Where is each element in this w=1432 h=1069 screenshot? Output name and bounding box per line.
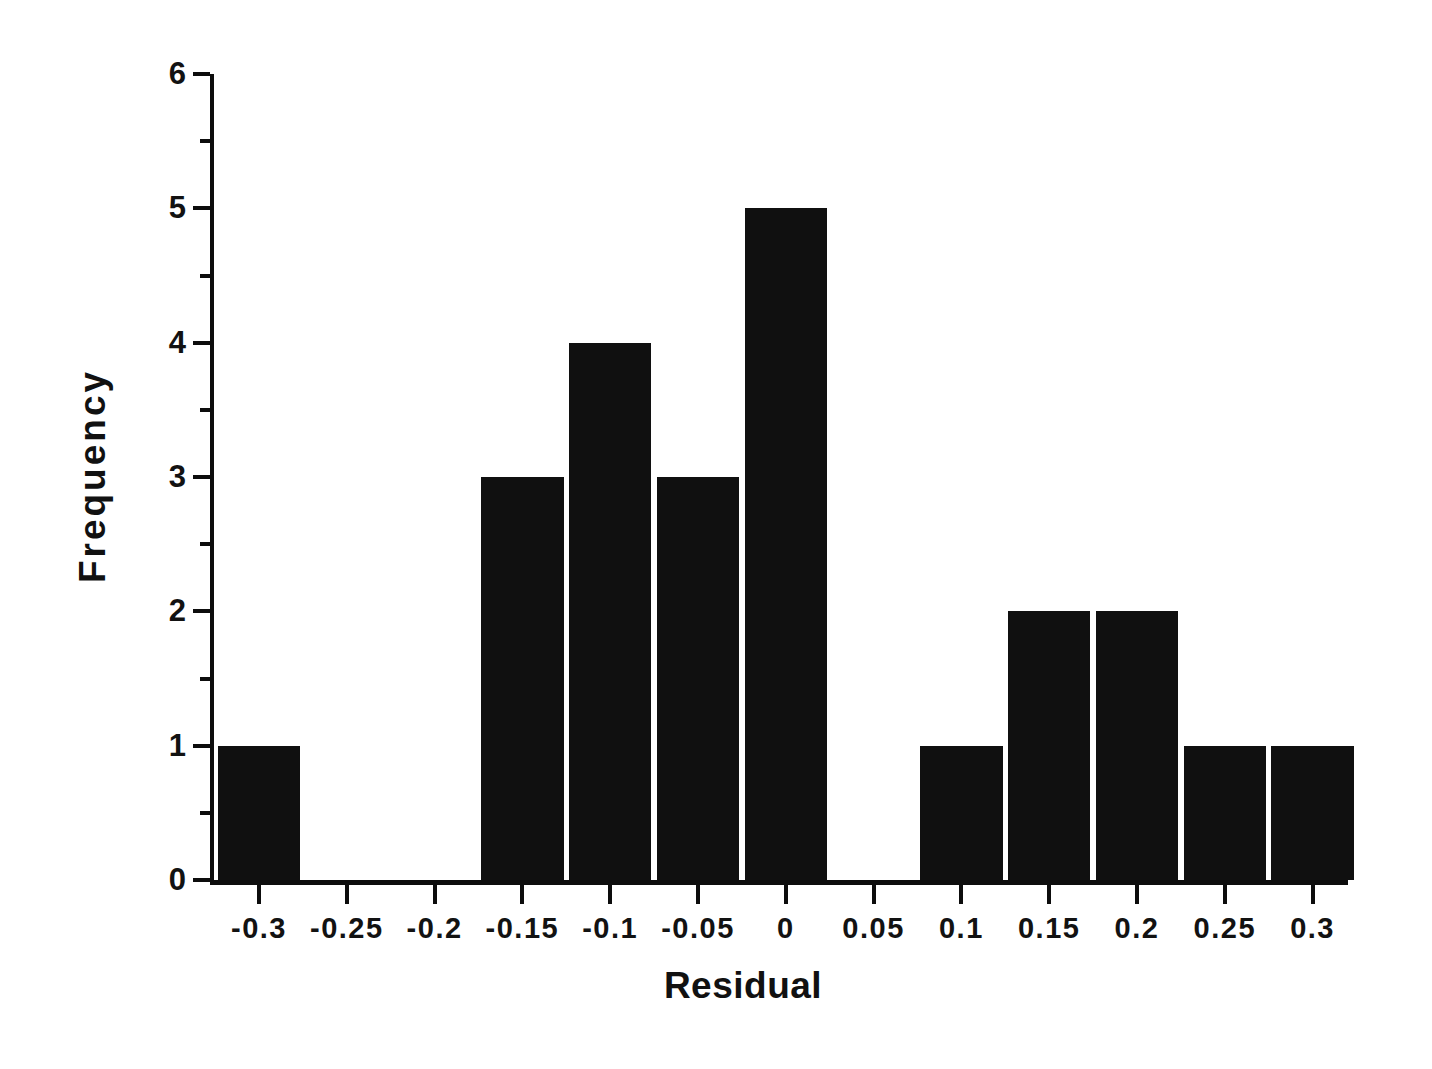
- y-tick-minor: [200, 274, 210, 278]
- x-tick: [257, 885, 261, 904]
- y-tick-label: 0: [169, 862, 186, 898]
- x-tick: [784, 885, 788, 904]
- y-tick-label: 3: [169, 459, 186, 495]
- bar: [1184, 746, 1267, 880]
- y-tick-label: 4: [169, 325, 186, 361]
- x-tick-label: -0.3: [231, 912, 287, 945]
- x-tick: [345, 885, 349, 904]
- bar: [745, 208, 828, 880]
- y-tick-major: [193, 341, 210, 345]
- bar: [218, 746, 301, 880]
- x-tick-label: 0.05: [842, 912, 904, 945]
- y-tick-minor: [200, 139, 210, 143]
- y-tick-label: 1: [169, 728, 186, 764]
- x-axis-title-text: Residual: [664, 965, 822, 1007]
- y-tick-label: 5: [169, 190, 186, 226]
- y-tick-minor: [200, 408, 210, 412]
- x-tick: [433, 885, 437, 904]
- x-tick: [608, 885, 612, 904]
- histogram-figure: 0123456 -0.3-0.25-0.2-0.15-0.1-0.0500.05…: [0, 0, 1432, 1069]
- bar: [920, 746, 1003, 880]
- y-tick-label: 2: [169, 593, 186, 629]
- y-axis-line: [210, 74, 214, 884]
- x-tick-label: 0: [777, 912, 795, 945]
- y-axis-title: Frequency: [58, 338, 128, 614]
- x-tick-label: -0.25: [310, 912, 384, 945]
- x-tick-label: 0.25: [1194, 912, 1256, 945]
- x-tick: [1311, 885, 1315, 904]
- x-tick-label: -0.1: [582, 912, 638, 945]
- x-tick-label: 0.3: [1290, 912, 1335, 945]
- x-tick-label: -0.15: [486, 912, 560, 945]
- plot-area: 0123456 -0.3-0.25-0.2-0.15-0.1-0.0500.05…: [210, 74, 1348, 884]
- x-axis-line: [210, 880, 1348, 885]
- x-axis-title: Residual: [0, 965, 1432, 1007]
- bar: [1096, 611, 1179, 880]
- y-tick-minor: [200, 677, 210, 681]
- y-tick-major: [193, 475, 210, 479]
- bar: [1008, 611, 1091, 880]
- y-tick-major: [193, 206, 210, 210]
- bar: [481, 477, 564, 880]
- x-tick: [696, 885, 700, 904]
- x-tick: [1223, 885, 1227, 904]
- x-tick-label: 0.2: [1115, 912, 1160, 945]
- x-tick: [1135, 885, 1139, 904]
- bar: [1271, 746, 1354, 880]
- bar: [657, 477, 740, 880]
- y-tick-minor: [200, 542, 210, 546]
- y-tick-major: [193, 72, 210, 76]
- y-tick-label: 6: [169, 56, 186, 92]
- x-tick-label: -0.05: [661, 912, 735, 945]
- bar: [569, 343, 652, 880]
- x-tick: [1047, 885, 1051, 904]
- y-tick-minor: [200, 811, 210, 815]
- x-tick-label: 0.15: [1018, 912, 1080, 945]
- x-tick: [959, 885, 963, 904]
- x-tick-label: 0.1: [939, 912, 984, 945]
- x-tick: [520, 885, 524, 904]
- y-axis-title-text: Frequency: [72, 369, 114, 583]
- y-tick-major: [193, 609, 210, 613]
- x-tick-label: -0.2: [407, 912, 463, 945]
- y-tick-major: [193, 878, 210, 882]
- x-tick: [872, 885, 876, 904]
- y-tick-major: [193, 744, 210, 748]
